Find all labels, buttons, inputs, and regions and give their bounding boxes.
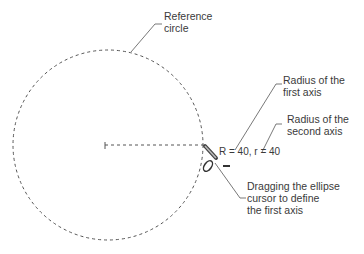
leader-first-axis xyxy=(235,84,282,150)
leader-dragging xyxy=(215,163,246,198)
leader-reference xyxy=(131,24,162,52)
radius-second-axis-label: Radius of the second axis xyxy=(287,113,349,137)
dragging-cursor-label: Dragging the ellipse cursor to define th… xyxy=(247,180,340,216)
radius-first-axis-label: Radius of the first axis xyxy=(283,74,345,98)
reference-circle-label: Reference circle xyxy=(164,10,212,34)
radius-readout: R = 40, r = 40 xyxy=(219,146,280,158)
